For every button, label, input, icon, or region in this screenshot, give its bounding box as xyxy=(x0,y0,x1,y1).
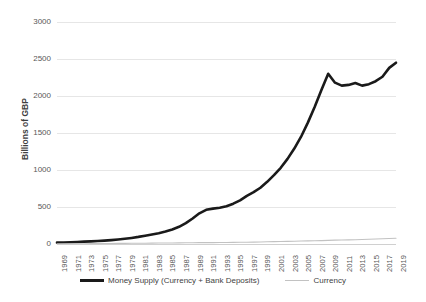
legend-item-currency: Currency xyxy=(285,276,345,285)
chart-legend: Money Supply (Currency + Bank Deposits) … xyxy=(0,276,426,285)
series-line-money xyxy=(57,63,396,243)
legend-line-icon-money-supply xyxy=(80,279,104,282)
plot-area xyxy=(0,0,426,302)
legend-item-money-supply: Money Supply (Currency + Bank Deposits) xyxy=(80,276,259,285)
legend-label-money-supply: Money Supply (Currency + Bank Deposits) xyxy=(108,276,259,285)
money-supply-line-chart: Billions of GBP 300025002000150010005000… xyxy=(0,0,426,302)
legend-line-icon-currency xyxy=(285,280,309,281)
legend-label-currency: Currency xyxy=(313,276,345,285)
